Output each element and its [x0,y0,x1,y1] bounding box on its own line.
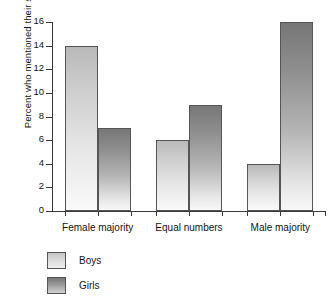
y-axis-tick [46,187,52,188]
y-axis-tick [46,211,52,212]
y-axis-tick [46,22,52,23]
legend-label: Girls [79,280,100,291]
x-axis-tick [247,211,248,216]
legend: BoysGirls [47,250,101,300]
y-axis-tick [46,140,52,141]
y-axis-tick-label: 16 [20,15,44,26]
bar-girls-equal-numbers [189,105,222,211]
legend-swatch-boys [47,252,66,269]
x-axis-tick [65,211,66,216]
x-axis-tick [189,211,190,216]
legend-item-girls: Girls [47,275,101,296]
y-axis-tick-label: 8 [20,110,44,121]
x-axis-tick [156,211,157,216]
x-axis-tick [313,211,314,216]
y-axis-tick [46,164,52,165]
x-axis-tick [222,211,223,216]
x-axis-tick [325,211,326,216]
bar-chart: Percent who mentioned their sex 02468101… [0,0,334,305]
x-axis-tick [98,211,99,216]
y-axis-tick [46,46,52,47]
bar-girls-male-majority [280,22,313,211]
y-axis-tick-label: 6 [20,133,44,144]
legend-swatch-girls [47,277,66,294]
bar-boys-equal-numbers [156,140,189,211]
bar-boys-male-majority [247,164,280,211]
y-axis-tick-label: 2 [20,180,44,191]
x-axis-tick [280,211,281,216]
x-axis-category-label: Male majority [235,222,326,233]
x-axis-tick [131,211,132,216]
y-axis-tick-label: 0 [20,204,44,215]
y-axis-line [52,22,53,211]
y-axis-tick-label: 12 [20,62,44,73]
plot-area: 0246810121416 [52,22,326,211]
bar-girls-female-majority [98,128,131,211]
x-axis-category-label: Equal numbers [143,222,234,233]
bar-boys-female-majority [65,46,98,211]
legend-label: Boys [79,255,101,266]
legend-item-boys: Boys [47,250,101,271]
y-axis-tick [46,93,52,94]
y-axis-tick [46,117,52,118]
x-axis-category-label: Female majority [52,222,143,233]
y-axis-tick-label: 4 [20,157,44,168]
y-axis-tick [46,69,52,70]
y-axis-tick-label: 14 [20,39,44,50]
y-axis-tick-label: 10 [20,86,44,97]
